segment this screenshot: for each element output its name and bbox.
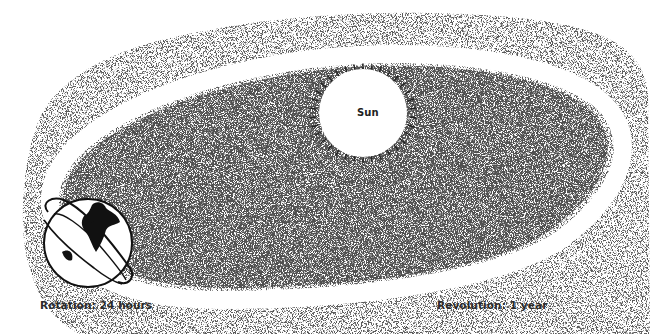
rotation-label: Rotation: 24 hours xyxy=(40,299,152,311)
orbit-diagram xyxy=(0,0,650,334)
earth xyxy=(44,199,132,287)
revolution-label: Revolution: 1 year xyxy=(437,299,548,311)
sun-label: Sun xyxy=(357,107,379,118)
